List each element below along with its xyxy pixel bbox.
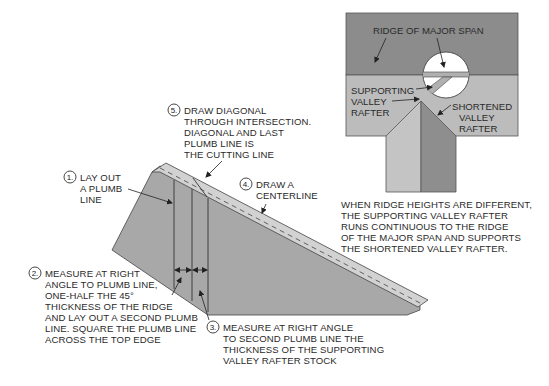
step-5-label: 5. DRAW DIAGONAL THROUGH INTERSECTION. D… (168, 104, 311, 177)
svg-text:CENTERLINE: CENTERLINE (256, 190, 318, 201)
svg-text:PLUMB LINE IS: PLUMB LINE IS (184, 138, 254, 149)
svg-text:THE SHORTENED VALLEY RAFTER.: THE SHORTENED VALLEY RAFTER. (341, 243, 507, 254)
svg-text:4.: 4. (243, 180, 250, 189)
svg-text:THROUGH INTERSECTION.: THROUGH INTERSECTION. (184, 116, 311, 127)
svg-text:WHEN RIDGE HEIGHTS ARE DIFFERE: WHEN RIDGE HEIGHTS ARE DIFFERENT, (341, 199, 532, 210)
svg-text:2.: 2. (32, 269, 39, 278)
plan-caption: WHEN RIDGE HEIGHTS ARE DIFFERENT, THE SU… (341, 199, 532, 254)
svg-text:VALLEY RAFTER STOCK: VALLEY RAFTER STOCK (223, 355, 337, 366)
svg-text:RUNS CONTINUOUS TO THE RIDGE: RUNS CONTINUOUS TO THE RIDGE (341, 221, 509, 232)
svg-text:AND LAY OUT A SECOND PLUMB: AND LAY OUT A SECOND PLUMB (45, 312, 198, 323)
svg-text:LINE. SQUARE THE PLUMB LINE: LINE. SQUARE THE PLUMB LINE (45, 323, 196, 334)
svg-text:ANGLE TO PLUMB LINE,: ANGLE TO PLUMB LINE, (45, 279, 158, 290)
svg-text:OF THE MAJOR SPAN AND SUPPORTS: OF THE MAJOR SPAN AND SUPPORTS (341, 232, 521, 243)
supporting-label-2: VALLEY (351, 96, 387, 107)
supporting-label-1: SUPPORTING (351, 85, 414, 96)
svg-text:THE SUPPORTING VALLEY RAFTER: THE SUPPORTING VALLEY RAFTER (341, 210, 508, 221)
shortened-label-1: SHORTENED (452, 101, 512, 112)
svg-text:THICKNESS OF THE SUPPORTING: THICKNESS OF THE SUPPORTING (223, 344, 384, 355)
ridge-label: RIDGE OF MAJOR SPAN (373, 25, 484, 36)
svg-text:1.: 1. (67, 173, 74, 182)
svg-text:DIAGONAL AND LAST: DIAGONAL AND LAST (184, 127, 284, 138)
svg-text:5.: 5. (171, 106, 178, 115)
svg-text:LINE: LINE (80, 194, 102, 205)
shortened-label-2: VALLEY (459, 112, 495, 123)
supporting-label-3: RAFTER (351, 107, 389, 118)
plan-diagram: RIDGE OF MAJOR SPAN SUPPORTING VALLEY RA… (346, 13, 518, 192)
svg-text:ACROSS THE TOP EDGE: ACROSS THE TOP EDGE (45, 334, 161, 345)
svg-text:DRAW DIAGONAL: DRAW DIAGONAL (184, 105, 267, 116)
svg-text:THICKNESS OF THE RIDGE: THICKNESS OF THE RIDGE (45, 301, 173, 312)
shortened-label-3: RAFTER (459, 123, 497, 134)
svg-text:MEASURE AT RIGHT ANGLE: MEASURE AT RIGHT ANGLE (223, 322, 353, 333)
svg-text:A PLUMB: A PLUMB (80, 183, 122, 194)
svg-text:MEASURE AT RIGHT: MEASURE AT RIGHT (45, 268, 140, 279)
svg-text:TO SECOND PLUMB LINE THE: TO SECOND PLUMB LINE THE (223, 333, 364, 344)
svg-text:LAY OUT: LAY OUT (80, 172, 121, 183)
svg-text:ONE-HALF THE 45°: ONE-HALF THE 45° (45, 290, 134, 301)
svg-text:THE CUTTING LINE: THE CUTTING LINE (184, 149, 274, 160)
diagram-canvas: RIDGE OF MAJOR SPAN SUPPORTING VALLEY RA… (0, 0, 549, 386)
svg-text:DRAW A: DRAW A (256, 179, 295, 190)
svg-text:3.: 3. (210, 323, 217, 332)
